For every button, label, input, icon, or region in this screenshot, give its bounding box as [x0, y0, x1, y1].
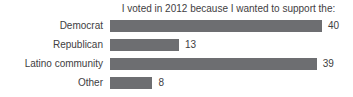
- chart-row: Latino community39: [0, 58, 353, 70]
- category-label: Latino community: [0, 58, 103, 70]
- bar: [110, 77, 152, 89]
- value-label: 8: [158, 77, 164, 89]
- chart-rows: Democrat40Republican13Latino community39…: [0, 20, 353, 96]
- chart-title: I voted in 2012 because I wanted to supp…: [104, 3, 353, 15]
- bar: [110, 20, 322, 32]
- bar: [110, 39, 179, 51]
- chart-row: Democrat40: [0, 20, 353, 32]
- bar-track: 40: [110, 20, 339, 32]
- value-label: 40: [328, 20, 339, 32]
- value-label: 13: [185, 39, 196, 51]
- bar-track: 39: [110, 58, 334, 70]
- category-label: Other: [0, 77, 103, 89]
- chart-row: Other8: [0, 77, 353, 89]
- value-label: 39: [323, 58, 334, 70]
- category-label: Democrat: [0, 20, 103, 32]
- bar-chart: I voted in 2012 because I wanted to supp…: [0, 0, 353, 97]
- category-label: Republican: [0, 39, 103, 51]
- chart-row: Republican13: [0, 39, 353, 51]
- bar: [110, 58, 317, 70]
- bar-track: 13: [110, 39, 196, 51]
- bar-track: 8: [110, 77, 164, 89]
